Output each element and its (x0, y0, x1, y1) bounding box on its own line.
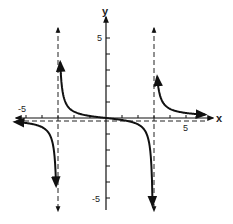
x-tick-label-neg5: -5 (18, 104, 26, 114)
x-tick-label-5: 5 (183, 123, 188, 133)
curve-left-branch (15, 122, 56, 186)
curve-right-branch (157, 77, 205, 115)
y-tick-label-neg5: -5 (92, 194, 100, 204)
x-axis-label: x (216, 112, 223, 124)
y-axis-label: y (102, 5, 109, 17)
rational-function-graph: x y -5 5 5 -5 (0, 0, 233, 224)
y-tick-label-5: 5 (97, 33, 102, 43)
